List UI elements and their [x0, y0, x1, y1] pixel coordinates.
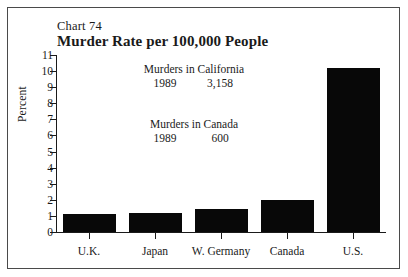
y-tick-label: 9 [47, 81, 53, 93]
y-tick-label: 2 [47, 194, 53, 206]
y-axis-line [56, 55, 57, 233]
y-tick-label: 7 [47, 113, 53, 125]
x-axis-label: Japan [142, 245, 168, 257]
x-axis-label: U.S. [343, 245, 363, 257]
x-tick-mark [287, 233, 288, 239]
x-axis-label: Canada [270, 245, 304, 257]
x-tick-mark [89, 233, 90, 239]
bar-w-germany [195, 209, 248, 232]
bar-u-s [327, 68, 380, 232]
y-tick-label: 10 [42, 65, 54, 77]
x-axis-label: U.K. [78, 245, 100, 257]
y-tick-label: 5 [47, 145, 53, 157]
bar-canada [261, 200, 314, 232]
x-tick-mark [221, 233, 222, 239]
y-tick-label: 4 [47, 161, 53, 173]
y-tick-label: 1 [47, 210, 53, 222]
y-tick-label: 6 [47, 129, 53, 141]
y-tick-label: 11 [42, 49, 53, 61]
bar-japan [129, 213, 182, 232]
chart-figure: Chart 74 Murder Rate per 100,000 People … [0, 0, 408, 277]
x-tick-mark [155, 233, 156, 239]
x-tick-mark [353, 233, 354, 239]
y-tick-label: 0 [47, 226, 53, 238]
plot-area: 01234567891011 U.K.JapanW. GermanyCanada… [56, 55, 386, 233]
y-tick-label: 3 [47, 177, 53, 189]
bar-u-k [63, 214, 116, 232]
page-title: Murder Rate per 100,000 People [57, 33, 268, 50]
y-tick-label: 8 [47, 97, 53, 109]
y-axis-title: Percent [16, 86, 28, 122]
x-axis-label: W. Germany [192, 245, 250, 257]
chart-number-label: Chart 74 [57, 19, 102, 34]
